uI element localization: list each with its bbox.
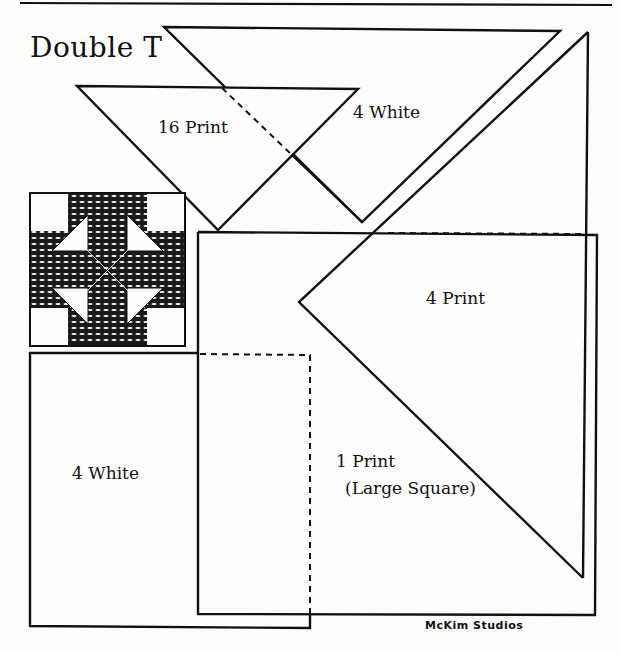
large-square-label-line1: 1 Print — [336, 451, 395, 471]
block-preview — [30, 193, 185, 346]
top-rule — [20, 3, 612, 5]
rectangle-piece — [30, 353, 310, 628]
pattern-sheet: Double T — [0, 0, 619, 653]
studio-credit: McKim Studios — [425, 619, 523, 632]
rectangle-label: 4 White — [72, 463, 139, 483]
large-square-label-line2: (Large Square) — [345, 478, 476, 498]
small-triangle-label: 16 Print — [158, 117, 228, 137]
medium-triangle-label: 4 White — [353, 102, 420, 122]
large-triangle-label: 4 Print — [426, 288, 485, 308]
page-title: Double T — [30, 31, 162, 64]
